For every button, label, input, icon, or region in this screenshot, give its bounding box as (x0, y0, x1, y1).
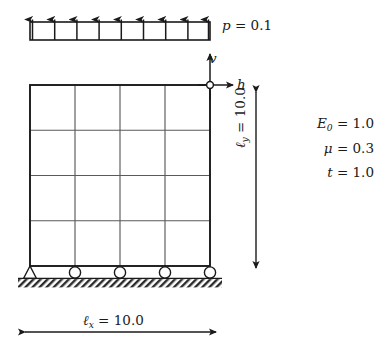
mesh-interior-lines (30, 85, 210, 266)
property-value: 1.0 (353, 115, 374, 131)
property-row: μ = 0.3 (290, 138, 374, 163)
load-label: p = 0.1 (222, 17, 272, 33)
lx-value: 10.0 (114, 312, 144, 328)
support-group (24, 266, 216, 279)
ground-group (18, 279, 222, 288)
property-value: 0.3 (353, 140, 374, 156)
ly-dimension-label: ℓy = 10.0 (232, 87, 250, 148)
property-symbol: t (327, 164, 332, 180)
property-equals: = (337, 140, 348, 156)
lx-dimension-label: ℓx = 10.0 (83, 312, 144, 330)
distributed-load-group (30, 20, 210, 41)
roller-support (114, 267, 125, 278)
pin-support (24, 266, 37, 279)
property-row: E0 = 1.0 (290, 113, 374, 138)
lx-equals: = (98, 312, 109, 328)
property-symbol: μ (324, 140, 333, 156)
property-equals: = (337, 115, 348, 131)
property-equals: = (337, 164, 348, 180)
material-properties-block: E0 = 1.0 μ = 0.3 t = 1.0 (290, 113, 374, 187)
lx-subscript: x (89, 319, 94, 330)
load-symbol: p (222, 17, 231, 33)
corner-node-circle (207, 82, 214, 89)
roller-support (159, 267, 170, 278)
load-value: 0.1 (251, 17, 272, 33)
dof-vertical-label: v (209, 50, 217, 66)
property-symbol: E (317, 115, 327, 131)
finite-element-mesh (30, 85, 210, 266)
roller-support (204, 267, 215, 278)
ly-value: 10.0 (232, 87, 248, 117)
property-value: 1.0 (353, 164, 374, 180)
load-equals: = (235, 17, 246, 33)
ly-equals: = (232, 122, 248, 133)
property-subscript: 0 (327, 122, 333, 133)
ly-subscript: y (239, 137, 250, 142)
property-row: t = 1.0 (290, 162, 374, 187)
ground-hatch (18, 279, 222, 287)
roller-support (69, 267, 80, 278)
load-bar-box (30, 22, 210, 40)
ly-symbol: ℓ (232, 142, 248, 148)
